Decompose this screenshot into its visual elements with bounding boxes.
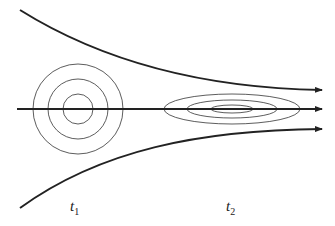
flow-diagram bbox=[0, 0, 335, 226]
label-t1: t1 bbox=[70, 198, 79, 217]
flow-line-upper bbox=[20, 10, 322, 90]
diagram-canvas: t1 t2 bbox=[0, 0, 335, 226]
flow-lines bbox=[17, 10, 322, 208]
flow-line-lower bbox=[20, 129, 322, 208]
label-t2: t2 bbox=[226, 198, 235, 217]
